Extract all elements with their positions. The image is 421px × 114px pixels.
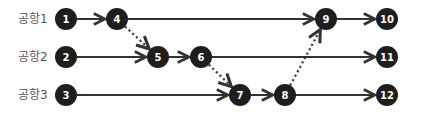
lane-label-2: 공항2: [18, 50, 48, 64]
node-11: 11: [376, 46, 398, 68]
edge-4-to-5: [125, 26, 149, 48]
edge-6-to-7: [209, 65, 232, 87]
node-1: 1: [55, 8, 77, 30]
node-12: 12: [376, 84, 398, 106]
flow-diagram: 공항1 공항2 공항3 149102561137812: [0, 0, 421, 114]
node-label: 2: [63, 52, 70, 63]
node-10: 10: [376, 8, 398, 30]
lane-label-3: 공항3: [18, 88, 48, 102]
node-label: 4: [114, 14, 121, 25]
node-7: 7: [229, 84, 251, 106]
node-label: 6: [198, 52, 205, 63]
node-label: 10: [380, 14, 394, 25]
node-3: 3: [55, 84, 77, 106]
node-label: 7: [237, 90, 244, 101]
node-5: 5: [147, 46, 169, 68]
node-label: 8: [282, 90, 289, 101]
node-label: 9: [323, 14, 330, 25]
node-label: 11: [380, 52, 394, 63]
node-8: 8: [274, 84, 296, 106]
node-6: 6: [190, 46, 212, 68]
node-4: 4: [106, 8, 128, 30]
node-label: 3: [63, 90, 70, 101]
node-label: 1: [63, 14, 70, 25]
node-2: 2: [55, 46, 77, 68]
node-label: 12: [380, 90, 394, 101]
node-9: 9: [315, 8, 337, 30]
lane-label-1: 공항1: [18, 12, 48, 26]
node-label: 5: [155, 52, 162, 63]
